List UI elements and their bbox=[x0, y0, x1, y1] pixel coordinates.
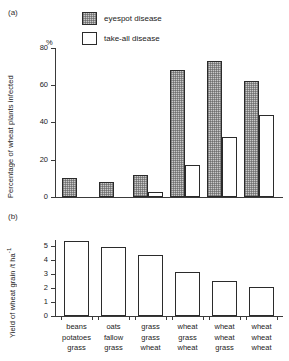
bar-takeall-3 bbox=[148, 192, 163, 197]
panel-b-ytick-5 bbox=[51, 246, 55, 247]
panel-a-x-axis-line bbox=[55, 197, 283, 198]
bar-takeall-4 bbox=[185, 165, 200, 197]
panel-b-ytick-4 bbox=[51, 260, 55, 261]
legend-swatch-eyespot-icon bbox=[82, 12, 97, 25]
panel-a-ytick-20 bbox=[51, 160, 55, 161]
bar-takeall-5 bbox=[222, 137, 237, 197]
bar-yield-1 bbox=[64, 241, 89, 316]
panel-b-xtick-1a bbox=[61, 316, 62, 320]
bar-yield-5 bbox=[212, 281, 237, 316]
legend-swatch-takeall-icon bbox=[82, 32, 97, 45]
panel-b-xtick-4b bbox=[203, 316, 204, 320]
bar-eyespot-4 bbox=[170, 70, 185, 197]
panel-b-xtick-5b bbox=[240, 316, 241, 320]
panel-a-tag: (a) bbox=[8, 8, 18, 17]
panel-b-tag: (b) bbox=[8, 212, 18, 221]
bar-eyespot-3 bbox=[133, 175, 148, 197]
panel-b-xtick-2a bbox=[98, 316, 99, 320]
panel-a-ytick-60 bbox=[51, 85, 55, 86]
panel-b-y-axis-line bbox=[55, 240, 56, 316]
bar-eyespot-6 bbox=[244, 81, 259, 197]
panel-b-xtick-6a bbox=[246, 316, 247, 320]
panel-b-ytick-label-1: 1 bbox=[32, 297, 48, 306]
bar-yield-2 bbox=[101, 247, 126, 316]
category-label-6-line3: wheat bbox=[239, 343, 284, 354]
panel-b-xtick-4a bbox=[172, 316, 173, 320]
category-label-6-line1: wheat bbox=[239, 322, 284, 333]
panel-b-xtick-6b bbox=[277, 316, 278, 320]
bar-takeall-6 bbox=[259, 115, 274, 197]
panel-b-xtick-3a bbox=[135, 316, 136, 320]
legend-label-eyespot: eyespot disease bbox=[104, 14, 162, 23]
panel-b-ytick-label-5: 5 bbox=[32, 241, 48, 250]
panel-b-ytick-0 bbox=[51, 316, 55, 317]
panel-a-ytick-label-0: 0 bbox=[32, 192, 48, 201]
panel-a-ytick-40 bbox=[51, 122, 55, 123]
panel-b-ytick-1 bbox=[51, 302, 55, 303]
panel-a-ytick-0 bbox=[51, 197, 55, 198]
bar-yield-3 bbox=[138, 255, 163, 316]
panel-a-ytick-label-40: 40 bbox=[32, 117, 48, 126]
panel-b-ytick-label-4: 4 bbox=[32, 255, 48, 264]
panel-b-y-axis-title-exponent: -1 bbox=[6, 248, 12, 254]
bar-eyespot-2 bbox=[99, 182, 114, 197]
panel-a-ytick-label-20: 20 bbox=[32, 155, 48, 164]
bar-yield-6 bbox=[249, 287, 274, 316]
panel-b-ytick-label-0: 0 bbox=[32, 311, 48, 320]
panel-b-ytick-label-2: 2 bbox=[32, 283, 48, 292]
category-label-6: wheat wheat wheat bbox=[239, 322, 284, 354]
panel-b-ytick-2 bbox=[51, 288, 55, 289]
panel-b-ytick-3 bbox=[51, 274, 55, 275]
panel-b-ytick-label-3: 3 bbox=[32, 269, 48, 278]
panel-b-xtick-1b bbox=[92, 316, 93, 320]
panel-b-y-axis-title-text: Yield of wheat grain /t ha bbox=[8, 253, 17, 338]
figure-root: (a) eyespot disease take-all disease % P… bbox=[0, 0, 289, 361]
panel-a-ytick-label-80: 80 bbox=[32, 43, 48, 52]
panel-a-ytick-label-60: 60 bbox=[32, 80, 48, 89]
legend-label-takeall: take-all disease bbox=[104, 34, 160, 43]
panel-b-xtick-2b bbox=[129, 316, 130, 320]
panel-b-xtick-5a bbox=[209, 316, 210, 320]
panel-a-y-axis-line bbox=[55, 48, 56, 198]
panel-b-xtick-3b bbox=[166, 316, 167, 320]
bar-eyespot-5 bbox=[207, 61, 222, 197]
panel-a-ytick-80 bbox=[51, 48, 55, 49]
panel-a-y-axis-title: Percentage of wheat plants infected bbox=[6, 58, 15, 198]
bar-eyespot-1 bbox=[62, 178, 77, 197]
category-label-6-line2: wheat bbox=[239, 333, 284, 344]
panel-b-x-axis-line bbox=[55, 316, 283, 317]
panel-b-y-axis-title: Yield of wheat grain /t ha-1 bbox=[6, 238, 17, 338]
bar-yield-4 bbox=[175, 272, 200, 316]
